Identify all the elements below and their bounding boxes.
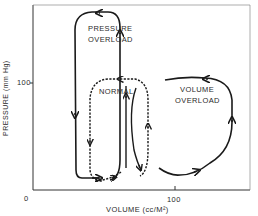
pressure-overload-label-1: PRESSURE — [88, 25, 132, 33]
pressure-overload-label-2: OVERLOAD — [88, 36, 133, 44]
volume-overload-label-2: OVERLOAD — [175, 97, 220, 105]
transition-curves — [126, 86, 141, 170]
x-tick-0: 0 — [24, 195, 29, 203]
x-axis-title: VOLUME (cc/M²) — [106, 206, 169, 214]
y-tick-100: 100 — [17, 79, 31, 87]
pressure-volume-diagram: PRESSURE OVERLOAD NORMAL VOLUME OVERLOAD… — [0, 0, 258, 216]
normal-label: NORMAL — [99, 88, 134, 96]
x-tick-100: 100 — [167, 196, 181, 204]
volume-overload-label-1: VOLUME — [180, 86, 214, 94]
y-axis-title: PRESSURE (mm Hg) — [2, 60, 9, 136]
